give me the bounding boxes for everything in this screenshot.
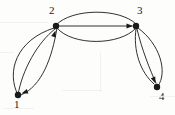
edge-1-to-2 <box>18 29 55 95</box>
edge-3-to-4 <box>137 29 156 83</box>
node-label-2: 2 <box>49 5 55 16</box>
node-label-1: 1 <box>14 99 20 110</box>
arrowhead-layer <box>21 24 158 96</box>
edge-2-to-3 <box>57 28 136 42</box>
edge-3-to-4 <box>135 29 154 84</box>
edge-layer <box>13 12 162 95</box>
arrowhead-into-node-4 <box>151 77 158 85</box>
figure-canvas: 1234 <box>0 0 175 115</box>
node-label-4: 4 <box>159 91 165 102</box>
edge-2-to-1 <box>21 28 57 95</box>
graph-drawing <box>0 0 175 115</box>
graph-node-3 <box>133 23 139 29</box>
edge-3-to-4 <box>138 28 162 86</box>
edge-2-to-3 <box>56 12 136 25</box>
graph-node-2 <box>53 23 59 29</box>
edge-1-to-2 <box>13 28 54 95</box>
node-label-3: 3 <box>137 5 143 16</box>
arrowhead-into-node-3 <box>127 24 134 29</box>
